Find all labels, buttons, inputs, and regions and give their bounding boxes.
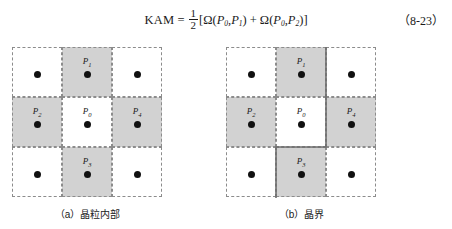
grid-cell-r2-c2: [326, 147, 376, 197]
grid-cell-p2: P2: [226, 97, 276, 147]
pixel-label: P2: [33, 106, 42, 118]
grid-cell-p2: P2: [12, 97, 62, 147]
term2-arg1: P: [273, 13, 281, 28]
fraction-numerator: 1: [189, 8, 199, 20]
pixel-label-subscript: 4: [352, 111, 355, 118]
grid-cell-r2-c0: [12, 147, 62, 197]
kam-equation: KAM=12[Ω(P0,P1)+Ω(P0,P2)]: [0, 8, 452, 32]
pixel-center-dot: [84, 171, 91, 178]
pixel-grid-a: P1P2P0P4P3: [12, 47, 163, 198]
equals-sign: =: [175, 13, 188, 28]
grid-cell-p3: P3: [62, 147, 112, 197]
pixel-label: P3: [83, 156, 92, 168]
figure-b-caption: （b）晶界: [226, 206, 377, 221]
fraction-denominator: 2: [189, 19, 199, 32]
equation-row: KAM=12[Ω(P0,P1)+Ω(P0,P2)] （8-23）: [0, 0, 452, 40]
grid-cell-r2-c0: [226, 147, 276, 197]
pixel-center-dot: [84, 71, 91, 78]
grid-cell-r0-c2: [112, 47, 162, 97]
one-half-fraction: 12: [189, 8, 199, 32]
grid-cell-p1: P1: [62, 47, 112, 97]
pixel-center-dot: [298, 71, 305, 78]
pixel-center-dot: [134, 171, 141, 178]
grid-cell-r0-c0: [12, 47, 62, 97]
figure-grain-boundary: P1P2P0P4P3 （b）晶界: [226, 40, 377, 198]
grid-cell-r2-c2: [112, 147, 162, 197]
omega-symbol-2: Ω: [260, 13, 269, 28]
pixel-label-subscript: 0: [302, 111, 305, 118]
grid-cell-r0-c2: [326, 47, 376, 97]
pixel-center-dot: [298, 171, 305, 178]
pixel-label: P4: [133, 106, 142, 118]
pixel-label: P4: [347, 106, 356, 118]
pixel-center-dot: [84, 121, 91, 128]
pixel-label: P3: [297, 156, 306, 168]
plus-sign: +: [247, 13, 260, 28]
pixel-label-subscript: 1: [302, 61, 305, 68]
pixel-center-dot: [248, 171, 255, 178]
figure-a-caption: （a）晶粒内部: [12, 206, 163, 221]
pixel-label-subscript: 1: [88, 61, 91, 68]
pixel-center-dot: [348, 71, 355, 78]
pixel-center-dot: [34, 71, 41, 78]
pixel-label-subscript: 0: [88, 111, 91, 118]
pixel-center-dot: [134, 121, 141, 128]
pixel-center-dot: [298, 121, 305, 128]
figure-grain-interior: P1P2P0P4P3 （a）晶粒内部: [12, 40, 163, 198]
pixel-center-dot: [134, 71, 141, 78]
equation-number: （8-23）: [398, 11, 444, 29]
grid-cell-r0-c0: [226, 47, 276, 97]
pixel-label: P1: [83, 56, 92, 68]
pixel-label-subscript: 3: [88, 161, 91, 168]
pixel-center-dot: [34, 121, 41, 128]
pixel-grid-b: P1P2P0P4P3: [226, 47, 377, 198]
omega-symbol-1: Ω: [203, 13, 212, 28]
grid-cell-p4: P4: [112, 97, 162, 147]
pixel-center-dot: [34, 171, 41, 178]
bracket-close: ]: [303, 13, 307, 28]
grid-cell-p1: P1: [276, 47, 326, 97]
pixel-label-subscript: 3: [302, 161, 305, 168]
pixel-center-dot: [248, 71, 255, 78]
pixel-label: P0: [297, 106, 306, 118]
pixel-label: P1: [297, 56, 306, 68]
grid-cell-p0: P0: [62, 97, 112, 147]
pixel-label-subscript: 4: [138, 111, 141, 118]
pixel-center-dot: [348, 121, 355, 128]
equation-lhs: KAM: [144, 13, 174, 28]
pixel-label-subscript: 2: [38, 111, 41, 118]
pixel-label-subscript: 2: [252, 111, 255, 118]
pixel-label: P2: [247, 106, 256, 118]
pixel-center-dot: [348, 171, 355, 178]
grid-cell-p0: P0: [276, 97, 326, 147]
pixel-center-dot: [248, 121, 255, 128]
figures-area: P1P2P0P4P3 （a）晶粒内部 P1P2P0P4P3 （b）晶界: [0, 40, 452, 229]
term1-arg2: P: [231, 13, 239, 28]
pixel-label: P0: [83, 106, 92, 118]
grid-cell-p4: P4: [326, 97, 376, 147]
grid-cell-p3: P3: [276, 147, 326, 197]
